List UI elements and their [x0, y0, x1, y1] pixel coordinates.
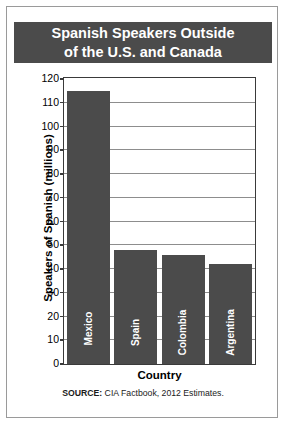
y-axis-tick-label: 50 [47, 238, 59, 250]
bar-argentina: Argentina [209, 264, 252, 364]
y-axis-tick-label: 60 [47, 215, 59, 227]
source-note: SOURCE: CIA Factbook, 2012 Estimates. [17, 388, 269, 398]
bar-mexico: Mexico [67, 91, 110, 364]
plot-area: 0102030405060708090100110120 MexicoSpain… [63, 77, 256, 365]
bar-series: MexicoSpainColombiaArgentina [64, 78, 255, 364]
chart-title-line-2: of the U.S. and Canada [14, 43, 272, 62]
y-axis-tick-label: 40 [47, 262, 59, 274]
y-axis-tick-label: 110 [42, 96, 59, 108]
chart-figure: Spanish Speakers Outside of the U.S. and… [6, 6, 278, 418]
bar-spain: Spain [114, 250, 157, 364]
bar-label: Argentina [225, 309, 236, 356]
x-axis-title: Country [63, 369, 256, 381]
y-axis-tick-label: 100 [41, 120, 59, 132]
source-text: CIA Factbook, 2012 Estimates. [102, 388, 224, 398]
bar-label: Spain [130, 319, 141, 346]
y-axis-tick-label: 20 [47, 310, 59, 322]
bar-label: Colombia [178, 310, 189, 356]
chart-title-line-1: Spanish Speakers Outside [14, 24, 272, 43]
y-axis-tick-label: 70 [47, 191, 59, 203]
y-axis-tick-label: 10 [47, 333, 59, 345]
y-axis-tick-label: 0 [53, 357, 59, 369]
bar-colombia: Colombia [162, 255, 205, 364]
y-axis-tick-label: 80 [47, 167, 59, 179]
y-axis-tick-label: 30 [47, 286, 59, 298]
source-prefix: SOURCE: [62, 388, 102, 398]
y-axis-tick-label: 90 [47, 143, 59, 155]
y-axis-tick-label: 120 [41, 72, 59, 84]
bar-label: Mexico [83, 312, 94, 346]
chart-title: Spanish Speakers Outside of the U.S. and… [14, 22, 272, 63]
